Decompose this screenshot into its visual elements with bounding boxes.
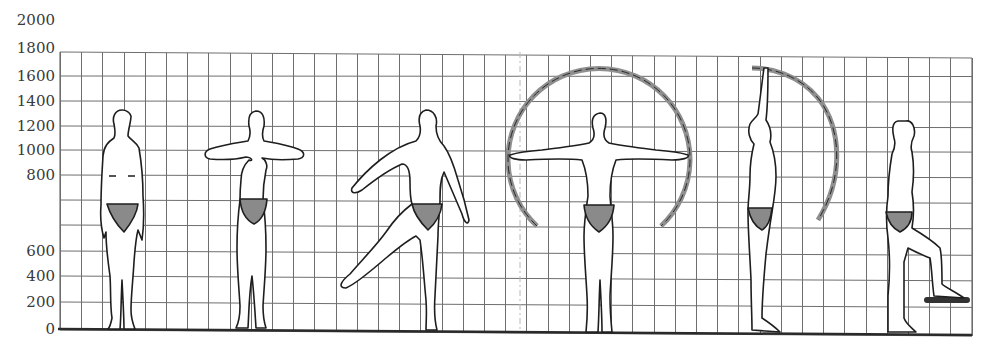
figure-arm-overhead [748,68,837,332]
figure-standing-front [101,110,144,329]
diagram-canvas: 2000 1800 1600 1400 1200 1000 800 600 40… [0,0,983,351]
figure-leg-kick [341,110,469,330]
figure-arms-outstretched [508,68,690,332]
figures-layer [0,0,983,351]
figure-arms-folded [205,111,304,328]
figure-step-up [886,121,970,332]
